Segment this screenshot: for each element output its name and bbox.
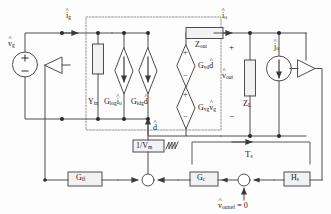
label-impedance-Zout: Zout	[195, 41, 207, 49]
label-modulator: 1/Vm	[136, 142, 152, 150]
label-vout-plus: +	[229, 43, 234, 52]
impedance-Yin-body	[93, 44, 104, 74]
label-reference-voutref: voutref = 0	[218, 202, 248, 210]
label-current-ig: ig	[66, 12, 71, 20]
label-Gvg-minus: −	[183, 113, 188, 121]
buffer-output-sense-triangle	[298, 60, 315, 77]
wire-output-sense-down	[315, 69, 322, 181]
label-impedance-ZL: ZL	[243, 100, 251, 108]
label-block-Hs: Hs	[291, 174, 299, 182]
summing-junction-inner-circle	[142, 174, 154, 186]
label-dep-source-Gidg: Gidgd	[131, 98, 148, 106]
label-duty-dhat: d	[153, 124, 157, 132]
label-Gvg-plus: +	[183, 91, 188, 99]
impedance-ZL-body	[245, 60, 256, 96]
label-Gvd-plus: +	[183, 49, 188, 57]
sawtooth-ramp-icon	[166, 142, 178, 149]
circuit-schematic-svg	[0, 0, 331, 214]
source-vg-polarity	[22, 55, 29, 72]
summing-junction-reference-circle	[238, 174, 250, 186]
label-current-io: io	[222, 12, 227, 20]
label-loop-gain-Ts: Ts	[245, 150, 253, 159]
buffer-input-sense-triangle	[45, 57, 62, 73]
label-Gvd-minus: −	[183, 72, 188, 80]
label-vout-minus: −	[229, 112, 234, 121]
label-dep-source-Giog: Giogio	[104, 98, 122, 106]
label-admittance-Yin: Yin	[88, 98, 98, 106]
label-dep-source-Gvg: Gvgvg	[198, 104, 216, 112]
label-dep-source-Gvd: Gvdd	[198, 62, 213, 70]
circuit-diagram-canvas: vg ig Yin Giogio Gidgd Zout Gvdd Gvgvg +…	[0, 0, 331, 214]
label-voltage-vout: vout	[222, 72, 233, 80]
label-block-Gff: Gff	[76, 174, 85, 182]
label-block-Gc: Gc	[197, 174, 205, 182]
label-source-vg: vg	[8, 40, 15, 48]
label-source-jo: jo	[274, 43, 279, 51]
